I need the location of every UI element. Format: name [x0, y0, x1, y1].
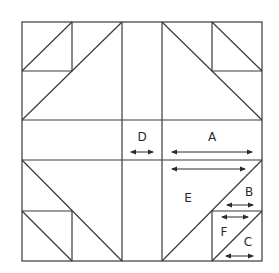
label-a: A: [208, 130, 217, 144]
quadrant-top-left: [22, 22, 122, 120]
label-f: F: [221, 225, 228, 239]
quadrant-bottom-left: [22, 160, 122, 261]
quilt-block-diagram: D A E B F C: [0, 0, 279, 273]
label-e: E: [184, 191, 192, 205]
label-b: B: [245, 185, 253, 199]
quadrant-top-right: [162, 22, 262, 120]
label-c: C: [244, 235, 252, 249]
label-d: D: [137, 130, 146, 144]
